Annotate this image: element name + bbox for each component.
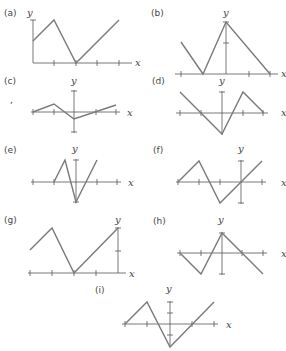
y-axis-label: y (114, 214, 121, 225)
y-axis-label: y (26, 7, 33, 18)
graph-curve (181, 22, 270, 74)
panel-label: (h) (153, 216, 166, 226)
y-axis-label: y (222, 7, 229, 18)
y-axis-label: y (70, 75, 77, 86)
panel-label: (i) (95, 285, 105, 295)
y-axis-label: y (217, 214, 224, 225)
graph-panel-i: (i)yx (95, 283, 232, 347)
graph-panel-a: (a)yx (4, 7, 141, 68)
panel-label: (a) (4, 8, 17, 18)
graph-panel-h: (h)yx (153, 214, 286, 275)
graph-curve (33, 20, 119, 63)
panel-label: (d) (152, 76, 165, 86)
y-axis-label: y (165, 283, 172, 294)
graph-curve (54, 160, 97, 202)
x-axis-label: x (129, 268, 135, 279)
panel-label: (f) (153, 145, 163, 155)
x-axis-label: x (281, 68, 286, 79)
panel-label: (g) (4, 215, 17, 225)
graph-panel-e: (e)yx (4, 143, 134, 203)
x-axis-label: x (281, 248, 286, 259)
graph-curve (33, 104, 116, 119)
graph-panel-d: (d)yx (152, 75, 286, 135)
graph-panel-c: (c)yx (4, 75, 133, 133)
x-axis-label: x (135, 57, 141, 68)
panel-label: (c) (4, 76, 16, 86)
x-axis-label: x (281, 107, 286, 118)
panel-label: (e) (4, 145, 17, 155)
x-axis-label: x (128, 177, 134, 188)
graph-sheet: (a)yx(b)yx(c)yx(d)yx(e)yx(f)yx(g)yx(h)yx… (0, 0, 286, 351)
x-axis-label: x (281, 177, 286, 188)
graph-curve (180, 233, 263, 274)
stray-mark: , (10, 95, 13, 105)
graph-panel-b: (b)yx (151, 7, 286, 79)
graph-panel-f: (f)yx (153, 143, 286, 204)
y-axis-label: y (71, 143, 78, 154)
graph-curve (30, 228, 118, 273)
graph-panel-g: (g)yx (4, 214, 135, 279)
x-axis-label: x (127, 107, 133, 118)
y-axis-label: y (218, 75, 225, 86)
y-axis-label: y (237, 143, 244, 154)
graph-curve (125, 302, 214, 347)
panel-label: (b) (151, 8, 164, 18)
x-axis-label: x (226, 319, 232, 330)
